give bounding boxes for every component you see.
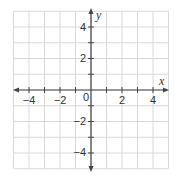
- y-tick-label-pos4: 4: [80, 21, 86, 33]
- y-tick-label-neg4: −4: [73, 146, 86, 158]
- coordinate-plane: x y −4 −2 0 2 4 4 2 −2 −4: [0, 0, 174, 178]
- x-tick-label-neg2: −2: [54, 94, 67, 106]
- origin-label: 0: [83, 91, 89, 103]
- y-tick-label-pos2: 2: [80, 52, 86, 64]
- y-tick-label-neg2: −2: [73, 115, 86, 127]
- x-axis-label: x: [158, 74, 165, 88]
- x-tick-label-pos4: 4: [150, 94, 156, 106]
- x-tick-label-pos2: 2: [119, 94, 125, 106]
- y-axis-label: y: [95, 8, 102, 22]
- x-tick-label-neg4: −4: [23, 94, 36, 106]
- axes: [13, 8, 169, 172]
